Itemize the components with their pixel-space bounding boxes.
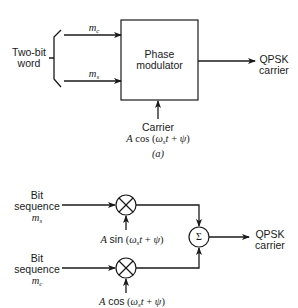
bottom-carrier-amp: A — [99, 296, 105, 307]
qpsk-b-line2: carrier — [252, 240, 288, 251]
qpsk-a-line2: carrier — [256, 65, 292, 76]
ms-signal-label: ms — [84, 68, 104, 83]
mc-subscript: c — [96, 27, 99, 35]
top-carrier-fn: sin — [110, 233, 123, 245]
top-signal: ms — [14, 212, 60, 227]
qpsk-carrier-label-a: QPSK carrier — [256, 54, 292, 76]
top-carrier-amp: A — [101, 234, 107, 245]
bottom-to-sum-line — [136, 248, 199, 268]
top-multiplier — [116, 195, 136, 215]
top-to-sum-line — [136, 205, 199, 226]
top-bit-sequence-label: Bit sequence ms — [14, 190, 60, 227]
bottom-carrier-fn: cos — [108, 295, 124, 307]
carrier-label: Carrier — [128, 122, 188, 133]
qpsk-carrier-label-b: QPSK carrier — [252, 229, 288, 251]
bottom-signal-subscript: c — [39, 280, 42, 288]
bottom-multiplier — [116, 258, 136, 278]
brace — [49, 30, 61, 87]
mc-signal-label: mc — [84, 22, 104, 37]
two-bit-label-line2: word — [10, 58, 48, 69]
summer-symbol: Σ — [192, 231, 206, 242]
block-label-line2: modulator — [121, 60, 198, 71]
caption-a: (a) — [143, 148, 173, 159]
top-input-line2: sequence — [14, 201, 60, 212]
bottom-carrier-expression: A cos (ωst + ψ) — [82, 296, 182, 308]
bottom-input-line2: sequence — [14, 264, 60, 275]
carrier-expression: A cos (ωst + ψ) — [108, 133, 208, 148]
top-carrier-expression: A sin (ωst + ψ) — [82, 234, 182, 249]
ms-subscript: s — [96, 73, 99, 81]
bottom-bit-sequence-label: Bit sequence mc — [14, 253, 60, 290]
top-signal-subscript: s — [39, 217, 42, 225]
bottom-signal: mc — [14, 275, 60, 290]
phase-modulator-label: Phase modulator — [121, 49, 198, 71]
two-bit-word-label: Two-bit word — [10, 47, 48, 69]
